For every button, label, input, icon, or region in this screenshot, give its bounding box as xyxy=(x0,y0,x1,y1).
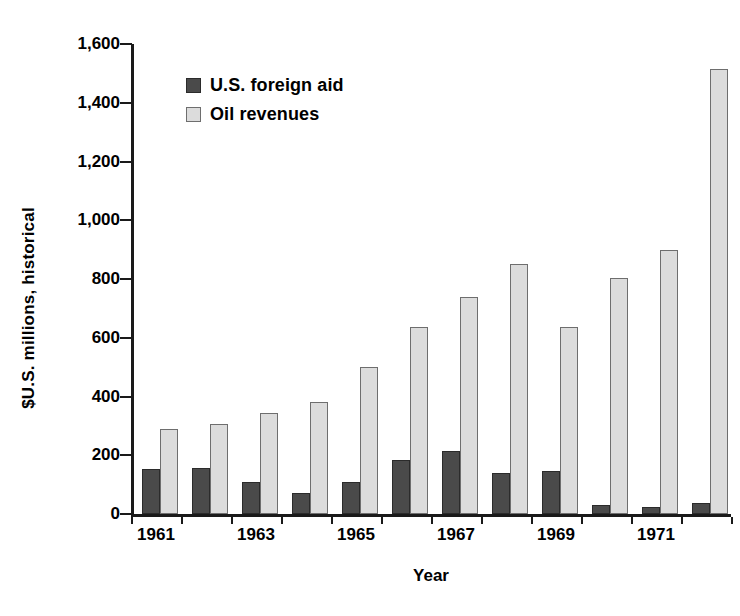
bar-group xyxy=(684,44,734,514)
bar-us-foreign-aid[interactable] xyxy=(192,468,210,514)
y-axis-tick-label: 800 xyxy=(92,270,120,287)
x-axis-title: Year xyxy=(131,566,731,586)
bar-us-foreign-aid[interactable] xyxy=(542,471,560,514)
x-axis-tick xyxy=(681,517,683,524)
bar-us-foreign-aid[interactable] xyxy=(492,473,510,514)
bar-group xyxy=(584,44,634,514)
bar-oil-revenues[interactable] xyxy=(210,424,228,514)
y-axis-tick xyxy=(120,513,132,515)
x-axis-tick xyxy=(481,517,483,524)
x-axis-tick xyxy=(731,517,733,524)
bar-group xyxy=(384,44,434,514)
bar-us-foreign-aid[interactable] xyxy=(592,505,610,514)
bar-oil-revenues[interactable] xyxy=(310,402,328,514)
y-axis-tick-label: 600 xyxy=(92,329,120,346)
y-axis-tick xyxy=(120,161,132,163)
x-axis-tick-label: 1965 xyxy=(337,525,375,545)
x-axis-tick xyxy=(581,517,583,524)
y-axis-tick-label: 1,600 xyxy=(77,35,120,52)
bar-oil-revenues[interactable] xyxy=(360,367,378,514)
x-axis-tick-label: 1967 xyxy=(437,525,475,545)
y-axis-tick xyxy=(120,454,132,456)
bar-us-foreign-aid[interactable] xyxy=(292,493,310,514)
bar-oil-revenues[interactable] xyxy=(560,327,578,514)
bar-us-foreign-aid[interactable] xyxy=(142,469,160,514)
y-axis-tick-label: 400 xyxy=(92,388,120,405)
x-axis-tick-labels: 196119631965196719691971 xyxy=(131,525,731,551)
y-axis-tick-label: 1,200 xyxy=(77,153,120,170)
x-axis-tick xyxy=(531,517,533,524)
bar-us-foreign-aid[interactable] xyxy=(392,460,410,514)
bar-group xyxy=(634,44,684,514)
y-axis-tick-labels: 02004006008001,0001,2001,4001,600 xyxy=(44,44,120,514)
x-axis-tick-label: 1971 xyxy=(637,525,675,545)
legend-swatch-oil-icon xyxy=(186,107,201,122)
bar-group xyxy=(534,44,584,514)
bar-group xyxy=(484,44,534,514)
legend-item[interactable]: U.S. foreign aid xyxy=(186,74,344,96)
y-axis-tick xyxy=(120,396,132,398)
bar-chart-figure: $U.S. millions, historical 0200400600800… xyxy=(0,0,740,616)
bar-us-foreign-aid[interactable] xyxy=(442,451,460,514)
y-axis-tick xyxy=(120,43,132,45)
x-axis-tick xyxy=(181,517,183,524)
y-axis-tick xyxy=(120,278,132,280)
bar-oil-revenues[interactable] xyxy=(260,413,278,514)
legend-item[interactable]: Oil revenues xyxy=(186,103,344,125)
bar-us-foreign-aid[interactable] xyxy=(242,482,260,514)
bar-oil-revenues[interactable] xyxy=(660,250,678,514)
x-axis-tick xyxy=(331,517,333,524)
y-axis-tick-label: 200 xyxy=(92,446,120,463)
bar-oil-revenues[interactable] xyxy=(710,69,728,514)
x-axis-tick xyxy=(131,517,133,524)
x-axis-tick-label: 1961 xyxy=(137,525,175,545)
chart-legend: U.S. foreign aidOil revenues xyxy=(186,74,344,125)
legend-item-label: U.S. foreign aid xyxy=(210,75,344,96)
y-axis-tick-label: 1,000 xyxy=(77,211,120,228)
y-axis-tick-label: 0 xyxy=(111,505,120,522)
y-axis-tick xyxy=(120,102,132,104)
bar-us-foreign-aid[interactable] xyxy=(342,482,360,514)
y-axis-tick-label: 1,400 xyxy=(77,94,120,111)
legend-item-label: Oil revenues xyxy=(210,104,319,125)
bar-oil-revenues[interactable] xyxy=(460,297,478,514)
y-axis-tick xyxy=(120,337,132,339)
bar-group xyxy=(434,44,484,514)
x-axis-tick-label: 1969 xyxy=(537,525,575,545)
x-axis-tick xyxy=(281,517,283,524)
x-axis-tick xyxy=(431,517,433,524)
x-axis-tick xyxy=(381,517,383,524)
bar-group xyxy=(134,44,184,514)
bar-oil-revenues[interactable] xyxy=(410,327,428,514)
bar-oil-revenues[interactable] xyxy=(160,429,178,514)
y-axis-tick xyxy=(120,219,132,221)
bar-us-foreign-aid[interactable] xyxy=(692,503,710,514)
x-axis-tick xyxy=(231,517,233,524)
bar-us-foreign-aid[interactable] xyxy=(642,507,660,514)
bar-oil-revenues[interactable] xyxy=(510,264,528,514)
x-axis-tick-label: 1963 xyxy=(237,525,275,545)
x-axis-tick xyxy=(631,517,633,524)
legend-swatch-aid-icon xyxy=(186,78,201,93)
bar-oil-revenues[interactable] xyxy=(610,278,628,514)
